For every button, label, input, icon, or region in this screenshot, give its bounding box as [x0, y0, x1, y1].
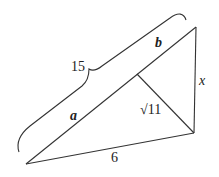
bottom-leg-line	[26, 133, 194, 164]
label-6: 6	[111, 150, 118, 165]
geometry-diagram: 15 b a x √11 6	[0, 0, 219, 177]
right-leg-line	[194, 27, 196, 133]
label-x: x	[198, 73, 206, 88]
label-b: b	[155, 35, 162, 50]
label-a: a	[70, 108, 77, 123]
hypotenuse-line	[26, 27, 196, 164]
label-15: 15	[71, 59, 85, 74]
label-sqrt11: √11	[140, 102, 161, 117]
